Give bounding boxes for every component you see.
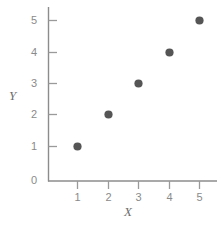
y-tick-label-3: 3 bbox=[26, 78, 42, 89]
data-point bbox=[73, 142, 81, 150]
y-tick-label-1: 1 bbox=[26, 141, 42, 152]
x-tick-label-4: 4 bbox=[162, 192, 178, 203]
x-tick-label-1: 1 bbox=[70, 192, 86, 203]
x-axis-title: X bbox=[124, 205, 132, 218]
data-point bbox=[104, 110, 112, 118]
x-tick-label-3: 3 bbox=[131, 192, 147, 203]
data-point bbox=[134, 79, 142, 87]
y-tick-label-4: 4 bbox=[26, 47, 42, 58]
x-tick-label-5: 5 bbox=[192, 192, 208, 203]
y-axis-title: Y bbox=[9, 89, 16, 102]
data-point bbox=[165, 48, 173, 56]
y-tick-label-0: 0 bbox=[26, 175, 42, 186]
scatter-plot-figure: 5 4 3 2 1 0 1 2 3 4 5 Y X bbox=[0, 0, 221, 225]
data-point bbox=[195, 16, 203, 24]
x-tick-label-2: 2 bbox=[101, 192, 117, 203]
y-tick-label-2: 2 bbox=[26, 109, 42, 120]
y-tick-label-5: 5 bbox=[26, 15, 42, 26]
